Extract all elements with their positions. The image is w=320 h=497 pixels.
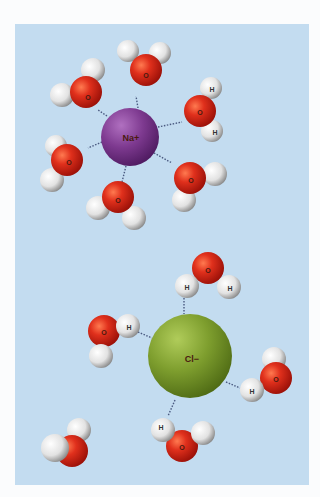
hydrogen-label: H	[184, 284, 189, 291]
oxygen-label: O	[143, 72, 149, 79]
water-molecule: O	[86, 181, 146, 230]
oxygen-label: O	[273, 376, 279, 383]
chloride-ion: Cl−	[148, 314, 232, 398]
water-molecule: O H	[88, 314, 140, 368]
water-molecule: O	[40, 135, 83, 192]
hydrogen-label: H	[209, 86, 214, 93]
oxygen-label: O	[66, 159, 72, 166]
water-molecule: O	[50, 58, 105, 108]
oxygen-label: O	[179, 444, 185, 451]
hydrogen-label: H	[158, 424, 163, 431]
oxygen-label: O	[197, 109, 203, 116]
oxygen-label: O	[115, 197, 121, 204]
hydrogen-label: H	[126, 324, 131, 331]
chloride-ion-label: Cl−	[185, 354, 199, 364]
sodium-ion-label: Na+	[123, 133, 140, 143]
oxygen-label: O	[85, 94, 91, 101]
free-water-molecule	[41, 418, 91, 467]
water-molecule: O H H	[184, 77, 223, 142]
oxygen-label: O	[101, 329, 107, 336]
water-molecule: O H	[151, 418, 215, 462]
water-molecule: O	[117, 40, 171, 86]
oxygen-label: O	[188, 177, 194, 184]
sodium-ion: Na+	[101, 108, 159, 166]
water-molecule: O H	[240, 347, 292, 402]
hydrogen-label: H	[227, 285, 232, 292]
water-molecule: O H H	[175, 252, 241, 299]
oxygen-label: O	[205, 267, 211, 274]
water-molecule: O	[172, 162, 227, 212]
hydrogen-label: H	[249, 388, 254, 395]
hydrogen-label: H	[212, 129, 217, 136]
hydration-diagram: O O O H H O O O Na+	[0, 0, 320, 497]
